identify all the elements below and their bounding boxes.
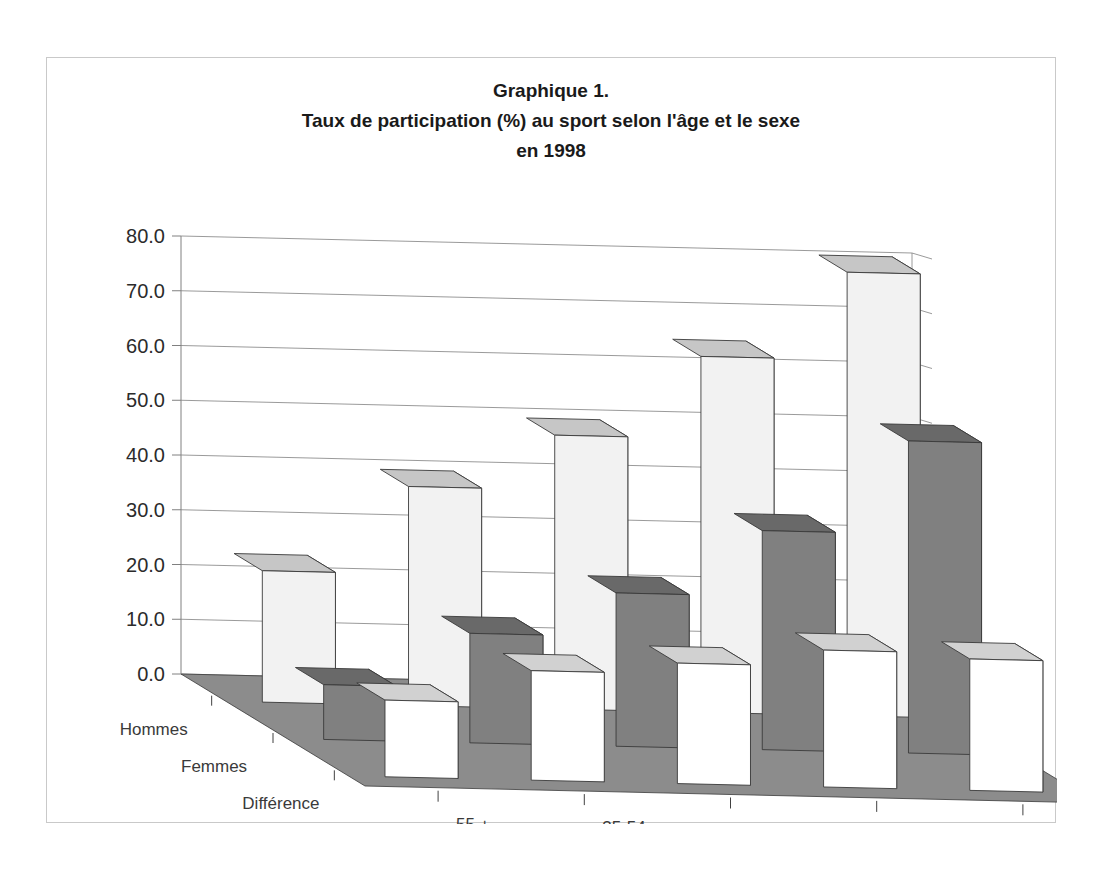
y-tick-label: 20.0 <box>126 554 165 576</box>
y-tick-label-group: 0.010.020.030.040.050.060.070.080.0 <box>126 225 165 685</box>
bar-group <box>234 255 1043 792</box>
y-tick-label: 70.0 <box>126 280 165 302</box>
chart-plot-area: 0.010.020.030.040.050.060.070.080.0 Homm… <box>47 58 1057 824</box>
category-label: 55 + <box>456 815 490 824</box>
series-label: Femmes <box>181 757 247 776</box>
series-label: Différence <box>242 794 319 813</box>
chart-frame: Graphique 1. Taux de participation (%) a… <box>46 57 1056 823</box>
y-tick-label: 30.0 <box>126 499 165 521</box>
category-label: 35-54 <box>602 818 645 824</box>
y-tick-label: 80.0 <box>126 225 165 247</box>
series-label: Hommes <box>120 720 188 739</box>
bar-3d <box>380 469 481 707</box>
y-tick-label: 10.0 <box>126 608 165 630</box>
y-tick-label: 40.0 <box>126 444 165 466</box>
category-label: 25-34 <box>749 822 792 825</box>
y-tick-label: 0.0 <box>137 663 165 685</box>
y-tick-label: 50.0 <box>126 389 165 411</box>
y-axis <box>172 236 181 674</box>
y-tick-label: 60.0 <box>126 335 165 357</box>
